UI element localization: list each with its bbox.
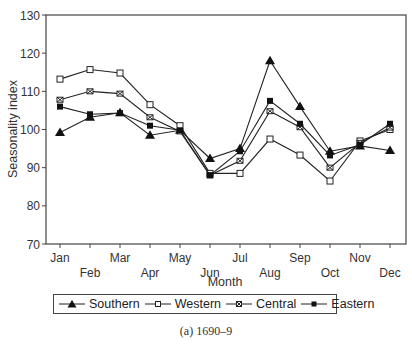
triangle-marker-icon — [59, 299, 85, 309]
x-tick-label: Sep — [289, 251, 311, 265]
x-tick-label: Mar — [110, 251, 131, 265]
y-tick-label: 70 — [27, 238, 41, 252]
legend-label: Central — [256, 297, 296, 311]
legend-item-western: Western — [145, 297, 221, 311]
legend-item-southern: Southern — [59, 297, 140, 311]
figure-caption: (a) 1690–9 — [0, 324, 412, 339]
open-square-marker-icon — [145, 299, 171, 309]
x-tick-label: Nov — [349, 251, 370, 265]
x-tick-label: Apr — [141, 266, 160, 280]
y-tick-label: 130 — [20, 9, 40, 23]
legend-label: Eastern — [331, 297, 374, 311]
x-tick-label: Jan — [50, 251, 69, 265]
x-tick-label: Aug — [259, 266, 280, 280]
series-lines — [55, 56, 395, 184]
x-tick-label: Jul — [232, 251, 247, 265]
cross-square-marker-icon — [226, 299, 252, 309]
legend-item-central: Central — [226, 297, 296, 311]
x-axis-title: Month — [208, 275, 243, 289]
y-axis-title: Seasonality index — [6, 79, 20, 178]
x-tick-label: Dec — [379, 266, 400, 280]
legend-item-eastern: Eastern — [301, 297, 374, 311]
y-tick-label: 110 — [21, 85, 40, 99]
plot-frame — [46, 15, 406, 244]
legend-label: Southern — [89, 297, 140, 311]
filled-square-marker-icon — [301, 299, 327, 309]
x-tick-label: Oct — [321, 266, 340, 280]
x-tick-label: May — [169, 251, 192, 265]
legend: Southern Western Central Eastern — [53, 294, 337, 314]
y-tick-label: 100 — [20, 123, 40, 137]
y-tick-label: 90 — [27, 161, 41, 175]
y-tick-label: 80 — [27, 199, 41, 213]
line-chart: 708090100110120130 JanFebMarAprMayJunJul… — [0, 0, 412, 290]
series-eastern — [57, 98, 393, 178]
y-axis: 708090100110120130 — [20, 9, 46, 252]
y-tick-label: 120 — [20, 47, 40, 61]
series-western — [57, 67, 393, 184]
legend-label: Western — [175, 297, 221, 311]
x-tick-label: Feb — [80, 266, 101, 280]
